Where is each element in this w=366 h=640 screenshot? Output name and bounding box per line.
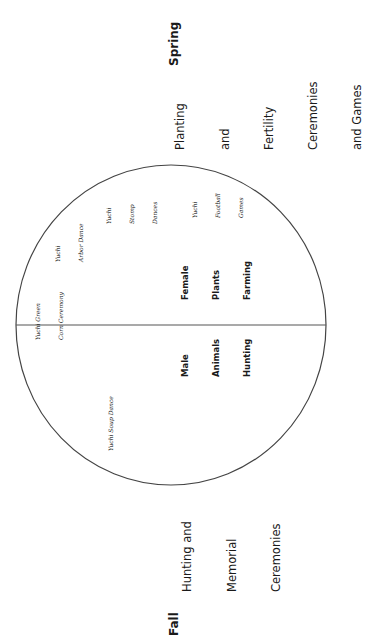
spring-group-line-3: Fertility	[262, 82, 277, 150]
season-label-fall: Fall	[168, 612, 182, 636]
fall-ceremony-group: Hunting and Memorial Ceremonies	[151, 521, 313, 592]
spring-ceremony-group: Planting and Fertility Ceremonies and Ga…	[144, 82, 366, 150]
spring-group-line-4: Ceremonies	[306, 82, 321, 150]
spring-group-line-1: Planting	[173, 82, 188, 150]
fall-group-line-3: Ceremonies	[269, 521, 284, 592]
event-line: Arbor Dance	[77, 223, 85, 262]
event-arbor-dance: Yuchi Arbor Dance	[38, 223, 100, 262]
event-soup-dance: Yuchi Soup Dance	[91, 396, 130, 451]
event-line: Games	[237, 193, 245, 218]
season-label-spring: Spring	[168, 22, 182, 66]
event-football-games: Yuchi Football Games	[175, 193, 261, 218]
event-green-corn-ceremony: Yuchi Green Corn Ceremony	[18, 292, 80, 340]
plants-label: Plants	[211, 261, 221, 300]
event-line: Yuchi Green	[34, 292, 42, 340]
male-label: Male	[180, 339, 190, 377]
event-line: Yuchi Soup Dance	[107, 396, 115, 451]
event-line: Football	[214, 193, 222, 218]
event-line: Yuchi	[54, 223, 62, 262]
female-half-label: Female Plants Farming	[160, 261, 272, 300]
fall-group-line-2: Memorial	[225, 521, 240, 592]
event-line: Stomp	[128, 202, 136, 224]
spring-group-line-2: and	[218, 82, 233, 150]
female-label: Female	[180, 261, 190, 300]
spring-group-line-5: and Games	[350, 82, 365, 150]
event-line: Dances	[151, 202, 159, 224]
male-half-label: Male Animals Hunting	[160, 339, 272, 377]
event-line: Yuchi	[105, 202, 113, 224]
event-line: Yuchi	[191, 193, 199, 218]
hunting-label: Hunting	[242, 339, 252, 377]
event-stomp-dances: Yuchi Stomp Dances	[89, 202, 175, 224]
farming-label: Farming	[242, 261, 252, 300]
fall-group-line-1: Hunting and	[180, 521, 195, 592]
event-line: Corn Ceremony	[57, 292, 65, 340]
animals-label: Animals	[211, 339, 221, 377]
